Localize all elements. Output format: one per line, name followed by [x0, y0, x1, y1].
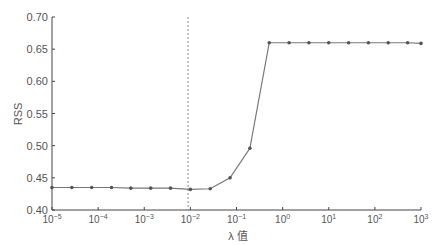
x-tick-label: 10−2	[181, 213, 200, 225]
y-tick-label: 0.45	[27, 172, 48, 184]
data-point-marker	[90, 186, 94, 190]
y-tick-label: 0.55	[27, 108, 48, 120]
data-point-marker	[406, 41, 410, 45]
data-point-marker	[208, 187, 212, 191]
data-point-marker	[50, 186, 54, 190]
data-point-marker	[228, 176, 232, 180]
data-point-marker	[129, 186, 133, 190]
y-tick-label: 0.65	[27, 43, 48, 55]
x-tick-label: 10−4	[89, 213, 108, 225]
x-tick-label: 102	[367, 213, 382, 225]
x-tick-label: 100	[275, 213, 290, 225]
x-tick-label: 101	[321, 213, 336, 225]
data-point-marker	[267, 41, 271, 45]
x-tick-label: 10−3	[135, 213, 154, 225]
y-axis-ticks: 0.400.450.500.550.600.650.70	[27, 11, 55, 216]
data-point-marker	[327, 41, 331, 45]
y-axis-label: RSS	[12, 103, 24, 126]
data-series-rss	[50, 41, 423, 191]
data-point-marker	[189, 188, 193, 192]
rss-vs-lambda-chart: 10−510−410−310−210−1100101102103 0.400.4…	[0, 0, 435, 245]
data-point-marker	[419, 42, 423, 46]
x-tick-label: 103	[413, 213, 428, 225]
axes	[52, 17, 421, 210]
y-tick-label: 0.40	[27, 204, 48, 216]
y-tick-label: 0.70	[27, 11, 48, 23]
x-axis-label: λ 值	[228, 230, 248, 242]
y-tick-label: 0.60	[27, 75, 48, 87]
data-point-marker	[70, 186, 74, 190]
data-point-marker	[287, 41, 291, 45]
data-point-marker	[169, 186, 173, 190]
y-tick-label: 0.50	[27, 140, 48, 152]
data-point-marker	[347, 41, 351, 45]
data-point-marker	[149, 186, 153, 190]
data-point-marker	[386, 41, 390, 45]
x-tick-label: 10−1	[227, 213, 246, 225]
series-line	[52, 43, 421, 190]
data-point-marker	[367, 41, 371, 45]
data-point-marker	[110, 186, 114, 190]
data-point-marker	[248, 146, 252, 150]
data-point-marker	[307, 41, 311, 45]
